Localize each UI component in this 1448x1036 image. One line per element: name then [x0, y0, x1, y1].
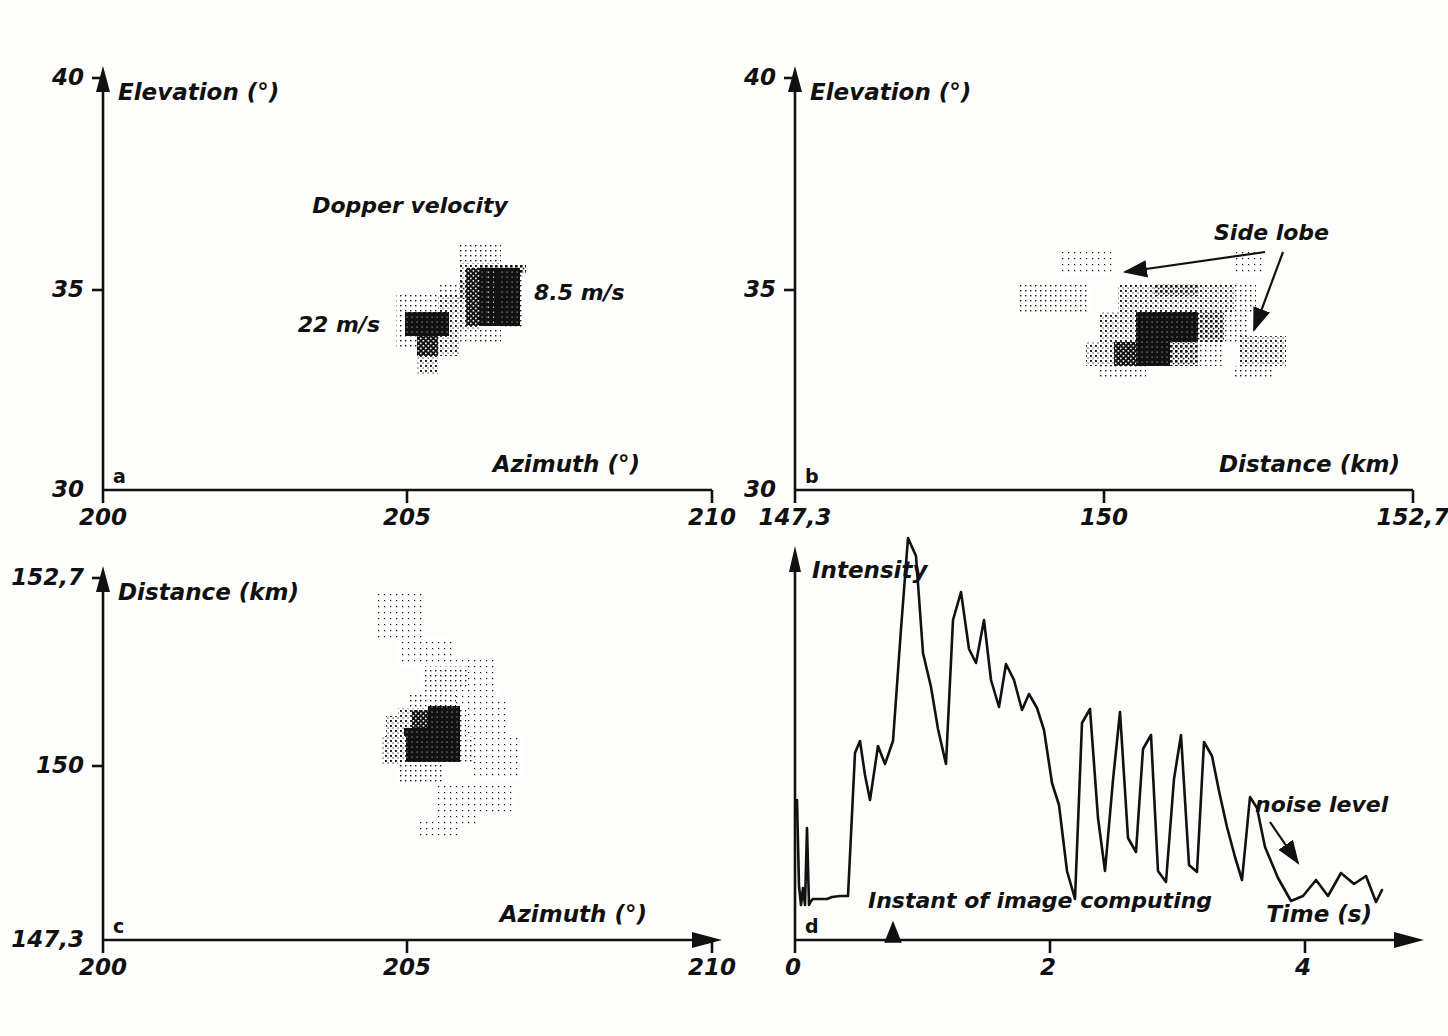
- noise-level-arrow: [1270, 822, 1298, 863]
- panel-b-ytick-label-40: 40: [743, 64, 776, 90]
- panel-a-ytick-label-40: 40: [51, 64, 84, 90]
- panel-c-xtick-label-200: 200: [79, 954, 127, 980]
- panel-b-xtick-label-1473: 147,3: [759, 504, 832, 530]
- panel-c-letter: c: [113, 915, 124, 937]
- instant-of-image-computing-label: Instant of image computing: [868, 888, 1212, 913]
- panel-c-x-axis-label: Azimuth (°): [498, 901, 647, 927]
- intensity-curve: [797, 538, 1382, 905]
- panel-c-ytick-label-150: 150: [36, 752, 84, 778]
- panel-a-cells: [396, 243, 526, 374]
- panel-c-cells: [376, 594, 522, 840]
- panel-c-xtick-label-205: 205: [383, 954, 431, 980]
- panel-d-y-axis-label: Intensity: [812, 557, 928, 583]
- velocity-85-label: 8.5 m/s: [534, 280, 625, 305]
- panel-c: 152,7 150 147,3 200 205 210 Distance (km…: [11, 564, 736, 980]
- panel-b-xtick-label-150: 150: [1080, 504, 1128, 530]
- dopper-velocity-label: Dopper velocity: [312, 193, 509, 218]
- velocity-22-label: 22 m/s: [298, 312, 380, 337]
- panel-d-y-arrowhead: [789, 546, 801, 572]
- panel-d-xtick-label-2: 2: [1040, 954, 1056, 980]
- panel-d: 0 2 4 Intensity Time (s) d Instant of im…: [785, 538, 1424, 980]
- panel-b-ytick-label-30: 30: [744, 476, 776, 502]
- panel-b-letter: b: [805, 465, 819, 487]
- panel-a-x-axis-label: Azimuth (°): [491, 451, 640, 477]
- panel-b-y-axis-label: Elevation (°): [810, 79, 971, 105]
- panel-a-letter: a: [113, 465, 126, 487]
- panel-d-xtick-label-0: 0: [785, 954, 801, 980]
- panel-a-xtick-label-205: 205: [383, 504, 431, 530]
- panel-d-letter: d: [805, 915, 819, 937]
- noise-level-label: noise level: [1255, 792, 1389, 817]
- panel-a-xtick-label-200: 200: [79, 504, 127, 530]
- side-lobe-label: Side lobe: [1214, 220, 1329, 245]
- panel-b-ytick-label-35: 35: [744, 276, 776, 302]
- panel-c-x-arrowhead: [692, 932, 722, 948]
- panel-b-x-axis-label: Distance (km): [1219, 451, 1400, 477]
- scientific-figure: 40 35 30 200 205 210 Elevation (°) Azimu…: [0, 0, 1448, 1036]
- panel-a-xtick-label-210: 210: [688, 504, 736, 530]
- panel-c-xtick-label-210: 210: [688, 954, 736, 980]
- panel-b-xtick-label-1527: 152,7: [1377, 504, 1448, 530]
- panel-c-ytick-label-1473: 147,3: [11, 926, 84, 952]
- panel-d-x-arrowhead: [1394, 932, 1424, 948]
- panel-c-ytick-label-1527: 152,7: [11, 564, 84, 590]
- panel-d-x-axis-label: Time (s): [1266, 901, 1372, 927]
- panel-a: 40 35 30 200 205 210 Elevation (°) Azimu…: [51, 64, 736, 530]
- panel-a-y-axis-label: Elevation (°): [118, 79, 279, 105]
- panel-c-y-axis-label: Distance (km): [118, 579, 299, 605]
- panel-a-ytick-label-30: 30: [52, 476, 84, 502]
- panel-b: 40 35 30 147,3 150 152,7 Elevation (°) D…: [743, 64, 1448, 530]
- panel-d-xtick-label-4: 4: [1294, 954, 1311, 980]
- figure-canvas: 40 35 30 200 205 210 Elevation (°) Azimu…: [0, 0, 1448, 1036]
- panel-a-ytick-label-35: 35: [52, 276, 84, 302]
